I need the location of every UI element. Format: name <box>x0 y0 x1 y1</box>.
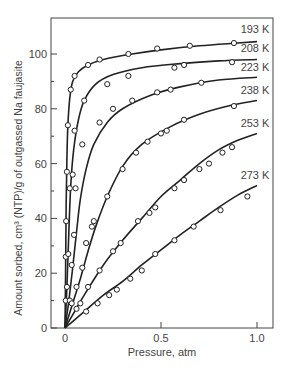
data-point-marker <box>84 309 89 314</box>
data-point-marker <box>155 90 160 95</box>
data-point-marker <box>172 238 177 243</box>
data-point-marker <box>72 128 77 133</box>
data-point-marker <box>107 293 112 298</box>
data-point-marker <box>118 240 123 245</box>
data-point-marker <box>135 219 140 224</box>
series-label: 253 K <box>241 117 270 129</box>
data-point-marker <box>74 306 79 311</box>
data-point-marker <box>74 284 79 289</box>
data-point-marker <box>97 57 102 62</box>
data-point-marker <box>168 87 173 92</box>
data-point-marker <box>110 106 115 111</box>
isotherm-curves <box>65 42 257 328</box>
data-point-marker <box>155 46 160 51</box>
y-axis-label: Amount sorbed, cm³ (NTP)/g of outgassed … <box>12 60 24 316</box>
isotherm-line <box>65 59 257 328</box>
data-point-marker <box>153 251 158 256</box>
series-label: 238 K <box>241 84 270 96</box>
data-point-marker <box>72 73 77 78</box>
data-point-marker <box>91 219 96 224</box>
isotherm-line <box>65 186 257 328</box>
y-tick-label: 40 <box>35 212 47 224</box>
y-tick-label: 60 <box>35 158 47 170</box>
data-point-marker <box>80 265 85 270</box>
data-point-marker <box>172 65 177 70</box>
data-point-marker <box>97 120 102 125</box>
isotherm-line <box>65 42 257 328</box>
data-point-marker <box>218 208 223 213</box>
series-label: 193 K <box>241 23 270 35</box>
data-point-marker <box>105 194 110 199</box>
isotherm-chart: 00.51.0020406080100 193 K208 K223 K238 K… <box>0 0 290 373</box>
series-label: 223 K <box>241 61 270 73</box>
data-point-marker <box>172 186 177 191</box>
data-point-marker <box>78 301 83 306</box>
y-tick-label: 0 <box>41 322 47 334</box>
x-tick-label: 1.0 <box>249 332 264 344</box>
data-point-marker <box>245 194 250 199</box>
data-point-marker <box>147 210 152 215</box>
data-point-marker <box>64 169 69 174</box>
data-point-marker <box>139 268 144 273</box>
data-point-marker <box>64 284 69 289</box>
data-point-marker <box>231 40 236 45</box>
data-point-marker <box>164 128 169 133</box>
series-label: 273 K <box>241 169 270 181</box>
data-point-marker <box>229 60 234 65</box>
data-point-marker <box>66 251 71 256</box>
data-point-marker <box>85 284 90 289</box>
y-tick-label: 100 <box>29 48 47 60</box>
series-label: 208 K <box>241 42 270 54</box>
data-point-marker <box>71 232 76 237</box>
y-tick-label: 80 <box>35 103 47 115</box>
data-point-marker <box>105 82 110 87</box>
data-point-marker <box>199 80 204 85</box>
data-point-marker <box>67 186 72 191</box>
data-point-marker <box>197 166 202 171</box>
data-point-marker <box>69 262 74 267</box>
data-point-marker <box>229 145 234 150</box>
x-axis-label: Pressure, atm <box>128 346 196 358</box>
data-point-marker <box>187 43 192 48</box>
data-point-marker <box>130 98 135 103</box>
y-tick-label: 20 <box>35 267 47 279</box>
data-point-marker <box>128 276 133 281</box>
data-point-marker <box>68 87 73 92</box>
data-point-marker <box>85 62 90 67</box>
data-point-marker <box>145 139 150 144</box>
data-point-marker <box>206 161 211 166</box>
x-tick-label: 0.5 <box>153 332 168 344</box>
data-point-marker <box>153 205 158 210</box>
data-point-marker <box>133 150 138 155</box>
data-point-marker <box>95 301 100 306</box>
data-point-marker <box>126 73 131 78</box>
data-point-marker <box>70 172 75 177</box>
data-point-marker <box>69 301 74 306</box>
data-points <box>63 40 250 314</box>
data-point-marker <box>181 117 186 122</box>
x-tick-label: 0 <box>62 332 68 344</box>
data-point-marker <box>110 249 115 254</box>
data-point-marker <box>181 177 186 182</box>
data-point-marker <box>191 224 196 229</box>
data-point-marker <box>114 287 119 292</box>
data-point-marker <box>84 240 89 245</box>
data-point-marker <box>82 98 87 103</box>
data-point-marker <box>80 142 85 147</box>
data-point-marker <box>97 268 102 273</box>
isotherm-line <box>65 77 257 328</box>
data-point-marker <box>89 224 94 229</box>
data-point-marker <box>64 219 69 224</box>
data-point-marker <box>158 131 163 136</box>
data-point-marker <box>126 51 131 56</box>
data-point-marker <box>181 62 186 67</box>
data-point-marker <box>231 103 236 108</box>
data-point-marker <box>220 150 225 155</box>
data-point-marker <box>120 166 125 171</box>
data-point-marker <box>73 186 78 191</box>
data-point-marker <box>65 123 70 128</box>
